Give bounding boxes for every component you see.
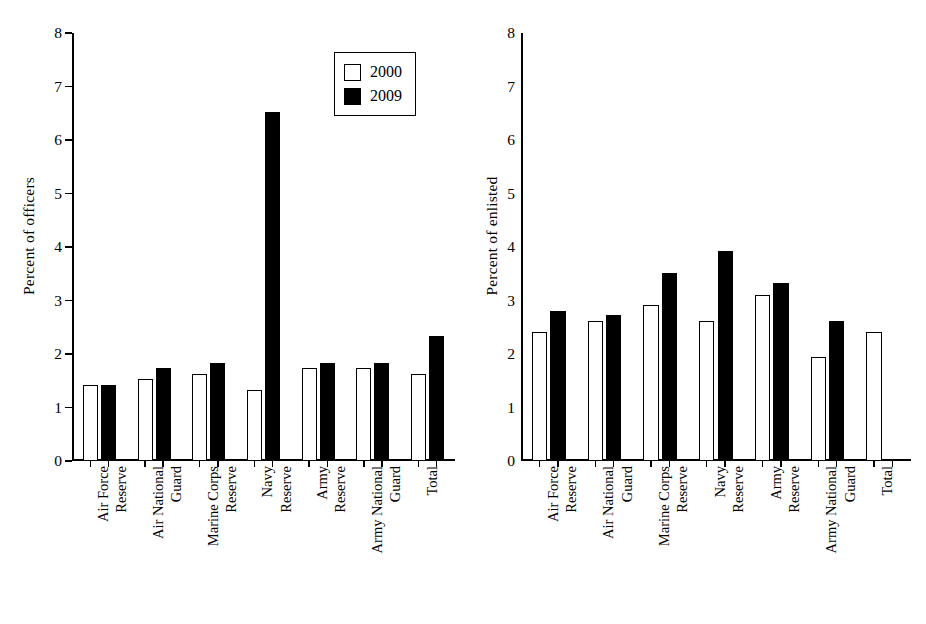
y-tick — [514, 300, 521, 301]
y-tick-label: 6 — [491, 132, 515, 148]
y-tick-label: 7 — [491, 79, 515, 95]
y-tick — [65, 460, 72, 461]
x-axis-label: Army — [315, 466, 330, 500]
x-axis-label: Reserve — [333, 466, 348, 513]
x-axis-label: Total — [880, 466, 895, 496]
y-tick — [65, 353, 72, 354]
x-axis-label: Reserve — [279, 466, 294, 513]
x-axis-label: Total — [425, 466, 440, 496]
y-tick — [514, 32, 521, 33]
y-tick — [514, 193, 521, 194]
y-tick — [65, 246, 72, 247]
legend-swatch-2009-icon — [344, 88, 361, 105]
y-tick-label: 5 — [38, 186, 62, 202]
bar-2000 — [411, 374, 426, 461]
y-tick-label: 4 — [491, 239, 515, 255]
bar-2009 — [429, 336, 444, 461]
x-axis-label: Reserve — [224, 466, 239, 513]
legend-swatch-2000-icon — [344, 64, 361, 81]
bar-2000 — [811, 357, 826, 461]
bar-2009 — [156, 368, 171, 461]
x-axis-label: Marine Corps — [657, 466, 672, 546]
x-axis-label: Guard — [843, 466, 858, 502]
y-tick-label: 0 — [38, 453, 62, 469]
bar-2000 — [532, 332, 547, 461]
x-axis-line — [521, 459, 911, 461]
y-tick — [65, 139, 72, 140]
y-tick — [65, 193, 72, 194]
y-tick-label: 8 — [38, 25, 62, 41]
bar-2009 — [320, 363, 335, 461]
x-axis-label: Air National — [151, 466, 166, 539]
bar-2009 — [773, 283, 788, 461]
x-axis-label: Air Force — [546, 466, 561, 522]
bar-2009 — [374, 363, 389, 461]
y-tick-label: 7 — [38, 79, 62, 95]
y-axis-line — [521, 33, 523, 461]
legend: 2000 2009 — [334, 52, 416, 116]
y-tick-label: 3 — [38, 293, 62, 309]
y-tick — [65, 32, 72, 33]
y-tick-label: 0 — [491, 453, 515, 469]
y-tick-label: 6 — [38, 132, 62, 148]
y-tick-label: 4 — [38, 239, 62, 255]
bar-2009 — [718, 251, 733, 461]
y-tick-label: 8 — [491, 25, 515, 41]
plot-area-enlisted: 012345678 — [521, 33, 911, 461]
x-axis-label: Navy — [260, 466, 275, 497]
y-tick — [514, 407, 521, 408]
x-axis-label: Air Force — [96, 466, 111, 522]
x-axis-label: Army — [769, 466, 784, 500]
legend-label-2000: 2000 — [370, 64, 402, 80]
bar-2000 — [699, 321, 714, 461]
x-axis-line — [72, 459, 455, 461]
bar-2009 — [550, 311, 565, 461]
x-axis-label: Reserve — [731, 466, 746, 513]
y-tick-label: 1 — [38, 400, 62, 416]
bar-2000 — [138, 379, 153, 461]
bar-2009 — [662, 273, 677, 461]
y-tick — [514, 353, 521, 354]
y-axis-title-officers: Percent of officers — [18, 16, 40, 456]
x-axis-label: Navy — [713, 466, 728, 497]
y-axis-line — [72, 33, 74, 461]
panel-officers: Percent of officers 012345678 Air ForceR… — [0, 0, 463, 624]
x-axis-label: Guard — [388, 466, 403, 502]
bar-2009 — [829, 321, 844, 461]
x-axis-label: Reserve — [675, 466, 690, 513]
x-axis-labels-enlisted: Air ForceReserveAir NationalGuardMarine … — [521, 466, 911, 616]
bar-2009 — [210, 363, 225, 461]
y-tick — [514, 139, 521, 140]
y-tick — [65, 86, 72, 87]
y-tick-label: 3 — [491, 293, 515, 309]
x-axis-label: Reserve — [787, 466, 802, 513]
bar-2009 — [606, 315, 621, 461]
y-tick — [514, 460, 521, 461]
legend-item-2009: 2009 — [344, 84, 402, 108]
bar-2000 — [83, 385, 98, 461]
bar-2009 — [265, 112, 280, 461]
legend-item-2000: 2000 — [344, 60, 402, 84]
y-tick-label: 2 — [491, 346, 515, 362]
x-axis-label: Reserve — [114, 466, 129, 513]
y-tick — [65, 300, 72, 301]
x-axis-label: Guard — [169, 466, 184, 502]
bar-2000 — [755, 295, 770, 461]
bar-2000 — [247, 390, 262, 461]
y-tick — [514, 86, 521, 87]
bar-2000 — [866, 332, 881, 461]
x-axis-label: Guard — [620, 466, 635, 502]
y-tick-label: 1 — [491, 400, 515, 416]
bar-2000 — [302, 368, 317, 461]
bar-2009 — [101, 385, 116, 461]
y-tick — [514, 246, 521, 247]
x-axis-label: Air National — [601, 466, 616, 539]
legend-label-2009: 2009 — [370, 88, 402, 104]
x-axis-label: Army National — [370, 466, 385, 553]
y-tick-label: 5 — [491, 186, 515, 202]
x-axis-label: Reserve — [564, 466, 579, 513]
panel-enlisted: Percent of enlisted 012345678 Air ForceR… — [463, 0, 926, 624]
bar-2000 — [588, 321, 603, 461]
bar-2000 — [192, 374, 207, 461]
bar-2000 — [643, 305, 658, 461]
